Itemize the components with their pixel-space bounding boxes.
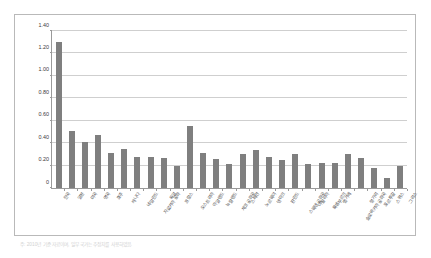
x-axis-tick-label: 캐나다	[132, 192, 143, 205]
bar	[397, 166, 403, 188]
x-axis-tick-label: 일본	[77, 192, 86, 201]
bar-slot	[157, 31, 170, 188]
bar	[240, 154, 246, 188]
chart-frame: 00.200.400.600.801.001.201.40 한국일본미국영국호주…	[14, 14, 416, 236]
x-axis-tick-mark	[130, 189, 131, 191]
bar	[384, 178, 390, 188]
x-axis-tick-mark	[209, 189, 210, 191]
x-axis-tick-label: 핀란드	[290, 192, 301, 205]
y-axis-tick-label: 0	[46, 180, 49, 185]
bar	[319, 163, 325, 188]
bar	[148, 157, 154, 188]
x-axis-tick-mark	[196, 189, 197, 191]
bar	[174, 166, 180, 188]
x-axis-tick-label: 한국	[64, 192, 73, 201]
bar	[279, 160, 285, 188]
x-axis-tick-label: 네덜란드	[146, 192, 159, 208]
bar-slot	[65, 31, 78, 188]
bar	[305, 164, 311, 188]
bar-slot	[52, 31, 65, 188]
bar	[161, 158, 167, 188]
bar	[226, 164, 232, 188]
bar	[108, 153, 114, 188]
bar	[69, 131, 75, 188]
x-axis-tick-mark	[275, 189, 276, 191]
bar	[358, 158, 364, 188]
x-axis-tick-mark	[315, 189, 316, 191]
x-axis-tick-label: 덴마크	[277, 192, 288, 205]
bar	[56, 42, 62, 188]
bar-slot	[328, 31, 341, 188]
screenshot-page: 00.200.400.600.801.001.201.40 한국일본미국영국호주…	[0, 0, 431, 258]
x-axis-tick-label: 미국	[90, 192, 99, 201]
x-axis-tick-mark	[64, 189, 65, 191]
bar	[253, 150, 259, 188]
bar	[266, 157, 272, 188]
x-axis-tick-mark	[156, 189, 157, 191]
bar-slot	[302, 31, 315, 188]
bar-series	[52, 31, 407, 188]
x-axis-labels: 한국일본미국영국호주캐나다네덜란드자료키아 공화독일프랑스오스트리아아일랜드뉴질…	[51, 189, 407, 235]
bar-slot	[236, 31, 249, 188]
bar-slot	[249, 31, 262, 188]
bar	[345, 154, 351, 188]
bar-slot	[394, 31, 407, 188]
x-axis-tick-mark	[328, 189, 329, 191]
bar	[332, 163, 338, 188]
x-axis-tick-mark	[91, 189, 92, 191]
x-axis-tick-mark	[249, 189, 250, 191]
y-axis-tick-label: 0.40	[39, 135, 50, 140]
bar-slot	[170, 31, 183, 188]
bar-slot	[91, 31, 104, 188]
y-axis-tick-label: 0.60	[39, 113, 50, 118]
x-axis-tick-label: 영국	[103, 192, 112, 201]
x-axis-tick-mark	[302, 189, 303, 191]
bar	[82, 142, 88, 188]
bar-slot	[315, 31, 328, 188]
x-axis-tick-label: 그리스	[408, 192, 419, 205]
bar	[95, 135, 101, 188]
bar-slot	[341, 31, 354, 188]
y-axis-tick-label: 0.20	[39, 157, 50, 162]
x-axis-tick-mark	[341, 189, 342, 191]
x-axis-tick-label: 프랑스	[184, 192, 195, 205]
bar-slot	[78, 31, 91, 188]
x-axis-tick-mark	[381, 189, 382, 191]
bar	[292, 154, 298, 188]
x-axis-tick-mark	[222, 189, 223, 191]
x-axis-tick-label: 호주	[117, 192, 126, 201]
bar-slot	[105, 31, 118, 188]
bar-slot	[223, 31, 236, 188]
bar-slot	[276, 31, 289, 188]
x-axis-tick-mark	[288, 189, 289, 191]
bar-slot	[197, 31, 210, 188]
x-axis-tick-label: 뉴질랜드	[226, 192, 239, 208]
y-axis-tick-label: 1.00	[39, 68, 50, 73]
y-axis-tick-label: 0.80	[39, 90, 50, 95]
bar-slot	[118, 31, 131, 188]
bar	[187, 126, 193, 188]
bar-slot	[354, 31, 367, 188]
x-axis-tick-mark	[407, 189, 408, 191]
x-axis-tick-mark	[143, 189, 144, 191]
bar-slot	[183, 31, 196, 188]
bar-slot	[144, 31, 157, 188]
x-axis-tick-mark	[394, 189, 395, 191]
x-axis-tick-mark	[117, 189, 118, 191]
bar-slot	[289, 31, 302, 188]
plot-area: 00.200.400.600.801.001.201.40	[51, 31, 407, 189]
x-axis-tick-mark	[183, 189, 184, 191]
bar-slot	[368, 31, 381, 188]
x-axis-tick-mark	[77, 189, 78, 191]
bar-slot	[210, 31, 223, 188]
bar	[371, 168, 377, 188]
y-axis-tick-label: 1.20	[39, 45, 50, 50]
bar-slot	[262, 31, 275, 188]
x-axis-tick-mark	[367, 189, 368, 191]
x-axis-tick-mark	[170, 189, 171, 191]
bar	[121, 149, 127, 188]
chart-caption: 주: 2010년 기준 자료이며, 일부 국가는 추정치를 사용하였음.	[20, 242, 410, 248]
x-axis-tick-mark	[104, 189, 105, 191]
bar-slot	[131, 31, 144, 188]
x-axis-tick-mark	[236, 189, 237, 191]
